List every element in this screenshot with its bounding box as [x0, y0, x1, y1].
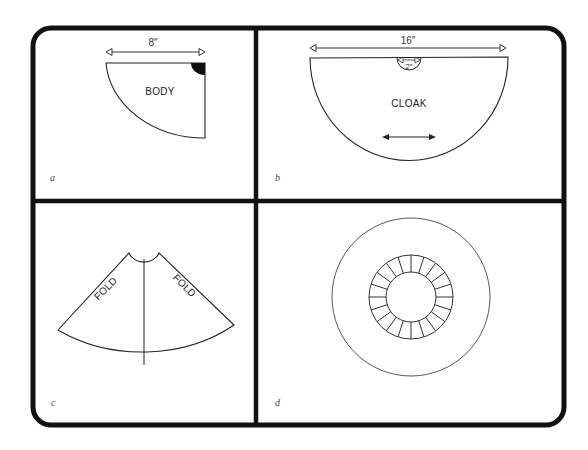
ring-segment-divider — [426, 263, 436, 277]
ring-segment-divider — [386, 317, 396, 331]
panel-letter-c: c — [51, 397, 56, 408]
ring-segment-divider — [386, 263, 396, 277]
pattern-diagram: 8″ BODY a 16″ 2″ CLOAK — [0, 0, 588, 450]
outer-circle — [332, 218, 490, 376]
collar-ring-inner — [386, 272, 436, 322]
panel-a: 8″ BODY a — [50, 37, 205, 183]
ring-segment-divider — [419, 257, 424, 273]
ring-segment-divider — [371, 305, 387, 310]
ring-segment-divider — [377, 272, 391, 282]
dimension-label-16in: 16″ — [401, 35, 416, 46]
ring-segment-divider — [435, 305, 451, 310]
ring-segment-divider — [431, 272, 445, 282]
dimension-label-8in: 8″ — [148, 37, 158, 48]
panel-d: d — [275, 218, 490, 408]
ring-segment-divider — [398, 321, 403, 337]
body-pattern-piece — [106, 63, 205, 138]
dimension-arrow-8in — [106, 49, 205, 56]
dimension-label-2in: 2″ — [405, 62, 412, 71]
panel-b: 16″ 2″ CLOAK b — [275, 35, 508, 183]
ring-segment-divider — [431, 312, 445, 322]
body-label: BODY — [145, 86, 175, 97]
ring-segment-divider — [426, 317, 436, 331]
panel-letter-a: a — [50, 172, 55, 183]
ring-segment-divider — [398, 257, 403, 273]
ring-segment-divider — [371, 284, 387, 289]
folded-cloak-piece — [58, 253, 234, 352]
panel-letter-b: b — [275, 172, 280, 183]
panel-letter-d: d — [275, 397, 281, 408]
ring-segment-divider — [419, 321, 424, 337]
ring-segment-divider — [377, 312, 391, 322]
ring-segment-divider — [435, 284, 451, 289]
cloak-label: CLOAK — [391, 98, 426, 109]
panel-c: FOLD FOLD c — [51, 253, 234, 408]
